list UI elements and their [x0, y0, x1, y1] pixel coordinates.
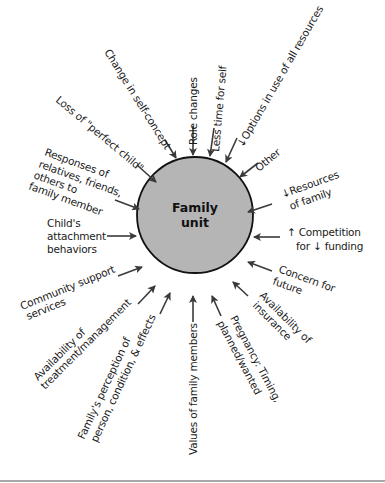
- label-role-changes: Role changes: [187, 77, 199, 145]
- label-less-time-for-self: Less time for self: [209, 65, 229, 152]
- family-unit-node: Family unit: [137, 157, 253, 273]
- arrow-responses-of-relatives: [115, 200, 139, 209]
- label-other: Other: [253, 145, 283, 173]
- arrow-pregnancy: [212, 296, 221, 316]
- arrow-availability-of-treatment: [138, 286, 155, 304]
- center-label-line1: Family: [172, 200, 218, 215]
- label-competition-1: ↑ Competition: [287, 226, 361, 238]
- center-label-line2: unit: [181, 215, 209, 230]
- label-community-support-1: Community support: [18, 263, 116, 312]
- label-childs-attachment-2: attachment: [47, 230, 106, 242]
- arrow-availability-of-insurance: [233, 282, 248, 296]
- arrow-concern-for-future: [248, 262, 272, 271]
- arrow-community-support: [118, 267, 142, 276]
- label-options-in-use: ↓Options in use of all resources: [234, 4, 325, 149]
- bottom-divider: [0, 480, 385, 482]
- label-values-of-family-members: Values of family members: [187, 323, 199, 455]
- label-competition-2: for ↓ funding: [296, 240, 363, 252]
- arrow-familys-perception: [160, 293, 170, 314]
- label-childs-attachment-1: Child's: [47, 217, 80, 229]
- label-childs-attachment-3: behaviors: [47, 243, 97, 255]
- family-unit-diagram: Family unit Change in self-concept Role …: [0, 0, 385, 483]
